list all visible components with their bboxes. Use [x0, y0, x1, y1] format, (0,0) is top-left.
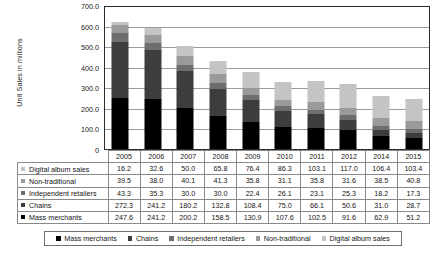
- bar-stack[interactable]: [112, 22, 129, 149]
- bar-segment: [242, 100, 259, 122]
- table-row-label-text: Non-traditional: [29, 177, 76, 186]
- series-swatch-icon: [21, 215, 25, 219]
- table-cell: 180.2: [172, 199, 204, 211]
- legend-item[interactable]: Digital album sales: [322, 234, 390, 243]
- table-cell: 40.1: [172, 175, 204, 187]
- table-cell: 28.7: [397, 199, 429, 211]
- table-year-header: 2015: [397, 151, 429, 163]
- bar-segment: [210, 61, 227, 75]
- bar-segment: [340, 120, 357, 130]
- y-axis-tick-label: 700.0: [81, 2, 99, 11]
- legend-swatch-icon: [56, 236, 61, 241]
- table-cell: 39.5: [108, 175, 140, 187]
- bar-stack[interactable]: [307, 81, 324, 149]
- bar-segment: [340, 130, 357, 149]
- bar-segment: [144, 99, 161, 149]
- legend-item[interactable]: Independent retailers: [169, 234, 245, 243]
- table-row-label: Digital album sales: [18, 163, 109, 175]
- table-cell: 86.3: [269, 163, 301, 175]
- y-axis-tick-label: 600.0: [81, 22, 99, 31]
- table-cell: 50.6: [333, 199, 365, 211]
- bar-segment: [177, 108, 194, 149]
- table-cell: 66.1: [301, 199, 333, 211]
- bar-segment: [144, 50, 161, 100]
- legend-label: Non-traditional: [264, 234, 311, 243]
- table-cell: 132.8: [204, 199, 236, 211]
- legend-item[interactable]: Mass merchants: [56, 234, 117, 243]
- series-swatch-icon: [21, 167, 25, 171]
- bar-segment: [275, 111, 292, 126]
- table-header-row: 2005200620072008200920102011201220142015: [18, 151, 430, 163]
- table-cell: 75.0: [269, 199, 301, 211]
- table-cell: 35.3: [140, 187, 172, 199]
- plot-area: Unit Sales in millions 700.0600.0500.040…: [0, 6, 446, 158]
- bar-segment: [242, 72, 259, 88]
- legend-swatch-icon: [256, 236, 261, 241]
- bar-segment: [307, 114, 324, 128]
- bar-stack[interactable]: [242, 72, 259, 149]
- table-cell: 247.6: [108, 211, 140, 223]
- bar-segment: [373, 136, 390, 149]
- table-year-header: 2005: [108, 151, 140, 163]
- table-row: Digital album sales16.232.650.065.876.48…: [18, 163, 430, 175]
- bar-stack[interactable]: [340, 84, 357, 149]
- table-cell: 62.9: [365, 211, 397, 223]
- table-cell: 35.8: [301, 175, 333, 187]
- table-year-header: 2012: [333, 151, 365, 163]
- data-table: 2005200620072008200920102011201220142015…: [17, 150, 430, 224]
- stacked-bar-chart: Unit Sales in millions 700.0600.0500.040…: [0, 0, 446, 253]
- legend-item[interactable]: Non-traditional: [256, 234, 311, 243]
- bar-segment: [112, 42, 129, 98]
- bar-stack[interactable]: [144, 28, 161, 149]
- bar-stack[interactable]: [373, 96, 390, 149]
- bar-segment: [144, 35, 161, 43]
- table-row-label: Mass merchants: [18, 211, 109, 223]
- y-axis-tick-label: 300.0: [81, 84, 99, 93]
- legend-swatch-icon: [128, 236, 133, 241]
- bar-segment: [177, 46, 194, 56]
- table-row-label-text: Digital album sales: [29, 165, 89, 174]
- table-cell: 51.2: [397, 211, 429, 223]
- bar-stack[interactable]: [210, 61, 227, 149]
- bar-segment: [210, 116, 227, 149]
- legend-label: Independent retailers: [177, 234, 245, 243]
- table-year-header: 2014: [365, 151, 397, 163]
- table-cell: 241.2: [140, 211, 172, 223]
- bar-segment: [112, 33, 129, 42]
- bar-segment: [373, 118, 390, 126]
- table-year-header: 2009: [237, 151, 269, 163]
- table-row: Non-traditional39.538.040.141.335.831.13…: [18, 175, 430, 187]
- legend-label: Mass merchants: [64, 234, 117, 243]
- bar-segment: [373, 96, 390, 118]
- y-axis-tick-label: 200.0: [81, 104, 99, 113]
- table-row: Chains272.3241.2180.2132.8108.475.066.15…: [18, 199, 430, 211]
- table-year-header: 2006: [140, 151, 172, 163]
- bar-segment: [340, 84, 357, 108]
- table-cell: 26.1: [269, 187, 301, 199]
- bar-segment: [405, 121, 422, 129]
- table-cell: 108.4: [237, 199, 269, 211]
- table-corner-blank: [18, 151, 109, 163]
- bar-stack[interactable]: [405, 99, 422, 149]
- bar-segment: [177, 71, 194, 108]
- table-year-header: 2010: [269, 151, 301, 163]
- bar-segment: [112, 25, 129, 33]
- bar-segment: [275, 82, 292, 100]
- y-axis-tick-label: 100.0: [81, 125, 99, 134]
- bar-segment: [307, 81, 324, 102]
- legend-label: Chains: [136, 234, 158, 243]
- table-cell: 103.1: [301, 163, 333, 175]
- bar-stack[interactable]: [177, 46, 194, 149]
- table-row-label: Independent retailers: [18, 187, 109, 199]
- table-cell: 65.8: [204, 163, 236, 175]
- legend-item[interactable]: Chains: [128, 234, 158, 243]
- table-cell: 102.5: [301, 211, 333, 223]
- table-cell: 107.6: [269, 211, 301, 223]
- series-swatch-icon: [21, 191, 25, 195]
- chart-legend: Mass merchantsChainsIndependent retailer…: [44, 231, 402, 246]
- bar-stack[interactable]: [275, 82, 292, 149]
- table-cell: 23.1: [301, 187, 333, 199]
- bar-segment: [242, 88, 259, 95]
- table-row-label: Non-traditional: [18, 175, 109, 187]
- table-cell: 30.0: [204, 187, 236, 199]
